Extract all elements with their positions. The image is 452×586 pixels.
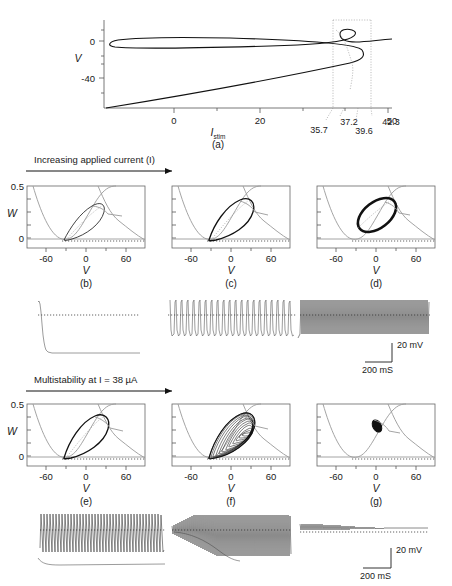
panel-a-ylabel: V — [74, 52, 82, 64]
panel-f-xtick-0: 0 — [228, 471, 233, 482]
panel-e-ylabel: W — [7, 425, 18, 437]
scale-label-time: 200 mS — [362, 365, 393, 375]
panel-e-xtick-neg60: -60 — [39, 471, 53, 482]
panel-e-xlabel: V — [82, 482, 90, 494]
panel-g-xtick-0: 0 — [373, 471, 378, 482]
panel-a-xtick-0: 0 — [171, 115, 176, 126]
multistability-text: Multistability at I = 38 µA — [34, 374, 138, 385]
panel-a-chart: 0 -40 0 20 50 V Istim 35.7 37.2 39.6 42.… — [0, 0, 452, 150]
scale-label-voltage-2: 20 mV — [396, 545, 422, 555]
panel-c-xtick-neg60: -60 — [184, 253, 198, 264]
panel-b-xlabel: V — [82, 264, 90, 276]
panel-c-xtick-0: 0 — [228, 253, 233, 264]
panel-c-chart: -60 0 60 V (c) — [172, 186, 290, 289]
panel-b-xtick-neg60: -60 — [39, 253, 53, 264]
scale-label-voltage: 20 mV — [397, 340, 423, 350]
panel-g-xlabel: V — [372, 482, 380, 494]
panel-a-bifurcation-35-7: 35.7 — [310, 125, 328, 135]
panel-d-label: (d) — [370, 278, 382, 289]
panel-f-chart: -60 0 60 V (f) — [172, 404, 290, 507]
scale-bars-row-2: 20 mV 200 mS — [360, 545, 422, 581]
panel-c-label: (c) — [225, 278, 237, 289]
panel-b-label: (b) — [80, 278, 92, 289]
panel-e-ytick-05: 0.5 — [11, 399, 24, 410]
panel-a-xtick-20: 20 — [255, 115, 266, 126]
svg-text:Istim: Istim — [211, 126, 226, 140]
panel-f-xlabel: V — [227, 482, 235, 494]
panel-d-chart: -60 0 60 V (d) — [317, 186, 435, 289]
scale-bars-row-1: 20 mV 200 mS — [362, 340, 423, 375]
panel-c-xtick-60: 60 — [266, 253, 277, 264]
panel-b-ytick-0: 0 — [19, 233, 24, 244]
panel-a-xlabel: Istim — [211, 126, 226, 140]
panel-e-xtick-60: 60 — [121, 471, 132, 482]
panel-e-xtick-0: 0 — [83, 471, 88, 482]
arrow-head-icon-2 — [165, 388, 172, 394]
figure-root: 0 -40 0 20 50 V Istim 35.7 37.2 39.6 42.… — [0, 0, 452, 586]
panel-g-chart: -60 0 60 V (g) — [317, 404, 435, 507]
panel-a-label: (a) — [212, 139, 224, 150]
panel-d-xtick-neg60: -60 — [329, 253, 343, 264]
panel-b-xtick-60: 60 — [121, 253, 132, 264]
trace-d — [298, 300, 430, 338]
trace-e — [38, 514, 165, 565]
increasing-current-text: Increasing applied current (I) — [34, 154, 155, 165]
multistability-header: Multistability at I = 38 µA — [24, 372, 264, 400]
panel-e-ytick-0: 0 — [19, 451, 24, 462]
arrow-head-icon — [165, 168, 172, 174]
panel-d-xtick-0: 0 — [373, 253, 378, 264]
scale-label-time-2: 200 mS — [360, 571, 391, 581]
panel-g-xtick-neg60: -60 — [329, 471, 343, 482]
trace-row-1: 20 mV 200 mS — [0, 290, 452, 380]
trace-b — [38, 301, 140, 353]
panel-efg-row: 0.5 0 W -60 0 60 V (e) -60 0 60 V (f) — [0, 398, 452, 508]
panel-d-xtick-60: 60 — [411, 253, 422, 264]
panel-a-bifurcation-39-6: 39.6 — [355, 126, 373, 136]
panel-d-xlabel: V — [372, 264, 380, 276]
panel-e-chart: 0.5 0 W -60 0 60 V (e) — [7, 399, 145, 507]
panel-b-xtick-0: 0 — [83, 253, 88, 264]
panel-b-chart: 0.5 0 W -60 0 60 V (b) — [7, 181, 145, 289]
panel-a-ytick-0: 0 — [90, 36, 95, 47]
trace-g — [300, 524, 428, 532]
increasing-current-header: Increasing applied current (I) — [24, 152, 264, 180]
trace-row-2: 20 mV 200 mS — [0, 506, 452, 586]
panel-bcd-row: 0.5 0 W -60 0 60 V (b) -60 0 60 V (c) — [0, 180, 452, 290]
panel-f-xtick-neg60: -60 — [184, 471, 198, 482]
panel-g-xtick-60: 60 — [411, 471, 422, 482]
panel-b-ylabel: W — [7, 207, 18, 219]
panel-b-ytick-05: 0.5 — [11, 181, 24, 192]
panel-c-xlabel: V — [227, 264, 235, 276]
panel-a-ytick-neg40: -40 — [81, 73, 95, 84]
trace-c — [168, 300, 296, 336]
trace-f — [172, 515, 292, 561]
panel-a-bifurcation-42-3: 42.3 — [382, 117, 400, 127]
panel-f-spiral — [209, 413, 255, 459]
panel-f-xtick-60: 60 — [266, 471, 277, 482]
